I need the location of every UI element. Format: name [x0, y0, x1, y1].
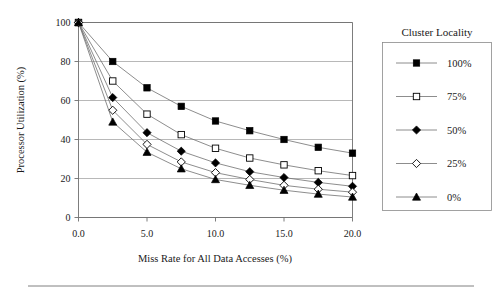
marker-filled-square: [110, 58, 116, 64]
y-tick-label: 0: [66, 212, 71, 223]
data-point: [144, 85, 150, 91]
legend-title: Cluster Locality: [401, 26, 473, 38]
y-axis-title: Processor Utilization (%): [15, 66, 27, 173]
marker-filled-square: [281, 136, 287, 142]
figure-container: 0.05.010.015.020.0 020406080100 Miss Rat…: [0, 0, 502, 297]
marker-filled-square: [144, 85, 150, 91]
marker-open-square: [281, 162, 287, 168]
marker-open-square: [178, 131, 184, 137]
data-point: [110, 78, 116, 84]
marker-open-square: [349, 172, 355, 178]
data-point: [349, 150, 355, 156]
legend-item-label: 25%: [447, 158, 467, 169]
data-point: [281, 162, 287, 168]
x-tick-label: 20.0: [344, 228, 362, 239]
y-tick-label: 80: [61, 56, 71, 67]
y-tick-label: 60: [61, 95, 71, 106]
marker-open-square: [144, 111, 150, 117]
data-point: [178, 131, 184, 137]
data-point: [212, 145, 218, 151]
data-point: [247, 128, 253, 134]
data-point: [110, 58, 116, 64]
marker-open-square: [413, 93, 419, 99]
line-chart: 0.05.010.015.020.0 020406080100 Miss Rat…: [0, 0, 502, 297]
data-point: [281, 136, 287, 142]
marker-open-square: [247, 155, 253, 161]
marker-filled-square: [315, 144, 321, 150]
y-tick-label: 100: [56, 17, 71, 28]
legend-marker: [413, 93, 419, 99]
marker-filled-square: [212, 118, 218, 124]
y-tick-label: 20: [61, 173, 71, 184]
legend-item-label: 100%: [447, 58, 472, 69]
legend-item-label: 0%: [447, 192, 461, 203]
data-point: [144, 111, 150, 117]
marker-filled-square: [247, 128, 253, 134]
x-tick-label: 15.0: [275, 228, 293, 239]
marker-open-square: [212, 145, 218, 151]
data-point: [178, 103, 184, 109]
legend-item-label: 50%: [447, 125, 467, 136]
marker-open-square: [315, 168, 321, 174]
data-point: [315, 168, 321, 174]
x-axis-title: Miss Rate for All Data Accesses (%): [138, 253, 292, 265]
legend-item-label: 75%: [447, 91, 467, 102]
marker-filled-square: [349, 150, 355, 156]
marker-open-square: [110, 78, 116, 84]
x-tick-label: 10.0: [207, 228, 225, 239]
data-point: [212, 118, 218, 124]
data-point: [247, 155, 253, 161]
x-tick-label: 5.0: [141, 228, 154, 239]
legend-marker: [413, 60, 419, 66]
data-point: [349, 172, 355, 178]
marker-filled-square: [413, 60, 419, 66]
x-tick-label: 0.0: [72, 228, 85, 239]
y-tick-label: 40: [61, 134, 71, 145]
data-point: [315, 144, 321, 150]
marker-filled-square: [178, 103, 184, 109]
